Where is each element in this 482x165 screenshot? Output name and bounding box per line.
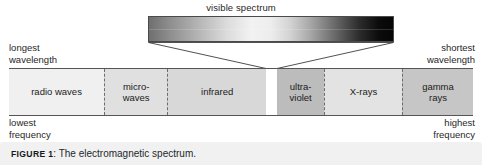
spectrum-band-visible-gap [266, 69, 277, 115]
spectrum-band-label: X-rays [350, 86, 377, 98]
label-lowest-frequency: lowest frequency [9, 117, 51, 140]
spectrum-band-radio-waves: radio waves [9, 69, 104, 115]
spectrum-band-ultraviolet: ultra- violet [277, 69, 324, 115]
visible-spectrum-label: visible spectrum [0, 2, 482, 14]
electromagnetic-spectrum-figure: visible spectrum longest wavelength shor… [0, 0, 482, 165]
label-shortest-wavelength: shortest wavelength [427, 42, 475, 65]
spectrum-band-gamma-rays: gamma rays [402, 69, 473, 115]
spectrum-band-label: gamma rays [422, 81, 454, 104]
label-longest-wavelength: longest wavelength [9, 42, 57, 65]
figure-caption-bar: FIGURE 1: The electromagnetic spectrum. [0, 142, 482, 165]
spectrum-band-label: micro- waves [123, 81, 150, 104]
figure-caption-text: FIGURE 1: The electromagnetic spectrum. [0, 147, 196, 161]
spectrum-band-x-rays: X-rays [324, 69, 402, 115]
spectrum-band-infrared: infrared [167, 69, 266, 115]
spectrum-band-microwaves: micro- waves [104, 69, 167, 115]
figure-caption-tag: FIGURE [11, 149, 46, 159]
label-highest-frequency: highest frequency [433, 117, 475, 140]
figure-caption-body: The electromagnetic spectrum. [59, 148, 196, 159]
visible-spectrum-gradient-bar [148, 16, 394, 42]
spectrum-band-label: radio waves [31, 86, 82, 98]
spectrum-band-strip: radio wavesmicro- wavesinfraredultra- vi… [9, 68, 473, 116]
spectrum-band-label: infrared [201, 86, 233, 98]
spectrum-band-label: ultra- violet [290, 81, 312, 104]
